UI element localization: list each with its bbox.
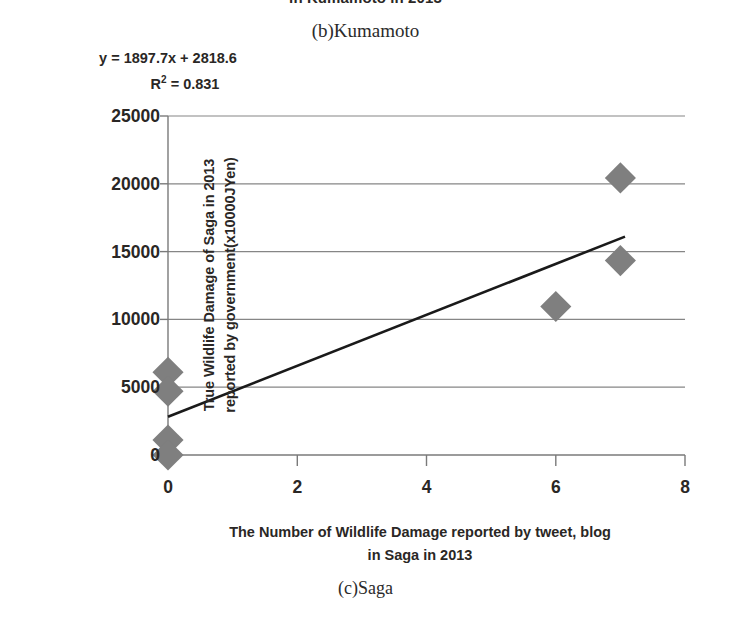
- x-axis-title: The Number of Wildlife Damage reported b…: [110, 521, 730, 567]
- x-tick-label: 8: [655, 477, 715, 498]
- x-tick-label: 2: [267, 477, 327, 498]
- x-axis-title-line2: in Saga in 2013: [110, 544, 730, 567]
- y-axis-title: True Wildlife Damage of Saga in 2013 rep…: [14, 110, 62, 460]
- x-tick-label: 6: [526, 477, 586, 498]
- x-axis-title-line1: The Number of Wildlife Damage reported b…: [110, 521, 730, 544]
- x-tick-label: 4: [397, 477, 457, 498]
- y-axis-title-line2: reported by government(x10000JYen): [55, 110, 405, 460]
- scatter-chart: 25000 20000 15000 10000 5000 0 0 2 4 6 8…: [0, 0, 731, 629]
- figure-caption-c: (c)Saga: [0, 578, 731, 599]
- x-tick-label: 0: [138, 477, 198, 498]
